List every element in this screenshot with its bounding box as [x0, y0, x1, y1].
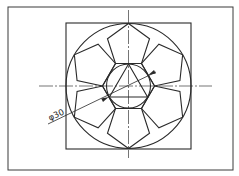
pentagon — [142, 86, 183, 128]
pentagon — [142, 44, 183, 86]
pentagon — [74, 86, 115, 128]
outer-frame — [8, 7, 233, 170]
pentagon — [74, 44, 115, 86]
technical-drawing: φ30 — [0, 0, 239, 176]
